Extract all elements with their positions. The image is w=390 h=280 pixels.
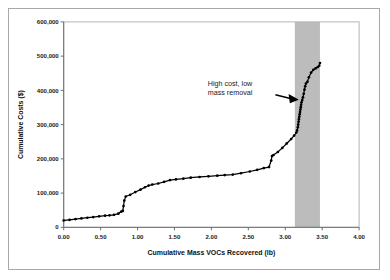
data-point xyxy=(302,96,305,99)
data-point xyxy=(298,113,301,116)
data-point xyxy=(68,218,71,221)
data-point xyxy=(303,88,306,91)
x-tick-label: 3.00 xyxy=(279,234,291,240)
y-tick-label: 400,000 xyxy=(37,88,60,94)
data-point xyxy=(223,174,226,177)
figure-outer-frame: 0100,000200,000300,000400,000500,000600,… xyxy=(8,8,380,270)
data-point xyxy=(169,179,172,182)
data-point xyxy=(301,99,304,102)
data-point xyxy=(298,118,301,121)
data-point xyxy=(240,172,243,175)
x-axis xyxy=(64,227,359,230)
data-point xyxy=(62,219,65,222)
data-point xyxy=(104,214,107,217)
data-point xyxy=(310,71,313,74)
data-point xyxy=(262,167,265,170)
data-point xyxy=(151,183,154,186)
data-point xyxy=(272,154,275,157)
data-point xyxy=(74,218,77,221)
x-tick-label: 3.50 xyxy=(316,234,328,240)
data-point xyxy=(299,108,302,111)
y-tick-label: 100,000 xyxy=(37,190,60,196)
data-point xyxy=(296,129,299,132)
data-point xyxy=(308,76,311,79)
data-point xyxy=(86,216,89,219)
data-point xyxy=(129,193,132,196)
y-axis-tick-labels: 0100,000200,000300,000400,000500,000600,… xyxy=(37,19,60,230)
cumulative-cost-chart: 0100,000200,000300,000400,000500,000600,… xyxy=(9,9,379,269)
data-point xyxy=(297,121,300,124)
data-point xyxy=(207,175,210,178)
data-point xyxy=(124,195,127,198)
x-tick-label: 0.50 xyxy=(95,234,107,240)
chart-container: 0100,000200,000300,000400,000500,000600,… xyxy=(9,9,379,269)
data-point xyxy=(175,178,178,181)
data-point xyxy=(299,106,302,109)
data-point xyxy=(216,174,219,177)
data-point xyxy=(163,180,166,183)
data-point xyxy=(182,177,185,180)
y-tick-label: 500,000 xyxy=(37,53,60,59)
data-point xyxy=(318,64,321,67)
y-tick-label: 200,000 xyxy=(37,156,60,162)
data-point xyxy=(306,80,309,83)
y-tick-label: 0 xyxy=(55,225,59,231)
data-point xyxy=(293,134,296,137)
data-point xyxy=(92,216,95,219)
annotation-line-2: mass removal xyxy=(208,89,253,97)
data-point xyxy=(157,182,160,185)
data-point xyxy=(270,159,273,162)
data-point xyxy=(297,123,300,126)
data-point xyxy=(300,101,303,104)
data-point xyxy=(281,147,284,150)
x-tick-label: 1.50 xyxy=(169,234,181,240)
data-point xyxy=(302,92,305,95)
data-point xyxy=(198,176,201,179)
data-point xyxy=(98,215,101,218)
x-tick-label: 2.00 xyxy=(206,234,218,240)
x-axis-title: Cumulative Mass VOCs Recovered (lb) xyxy=(148,249,276,257)
y-axis xyxy=(61,22,64,227)
data-point xyxy=(189,176,192,179)
x-tick-label: 0.00 xyxy=(58,234,70,240)
data-point xyxy=(113,213,116,216)
x-tick-label: 2.50 xyxy=(242,234,254,240)
data-point xyxy=(300,103,303,106)
data-point xyxy=(80,217,83,220)
data-point xyxy=(144,186,147,189)
data-point xyxy=(231,173,234,176)
x-tick-label: 1.00 xyxy=(132,234,144,240)
y-axis-title: Cumulative Costs ($) xyxy=(17,90,25,159)
data-point xyxy=(147,184,150,187)
data-point xyxy=(296,126,299,129)
x-axis-tick-labels: 0.000.501.001.502.002.503.003.504.00 xyxy=(58,234,366,240)
y-tick-label: 300,000 xyxy=(37,122,60,128)
data-point xyxy=(117,212,120,215)
data-point xyxy=(285,142,288,145)
y-tick-label: 600,000 xyxy=(37,19,60,25)
data-point xyxy=(108,214,111,217)
data-point xyxy=(290,138,293,141)
data-point xyxy=(139,188,142,191)
data-point xyxy=(123,199,126,202)
x-tick-label: 4.00 xyxy=(353,234,365,240)
data-point xyxy=(298,115,301,118)
data-point xyxy=(277,151,280,154)
data-point xyxy=(248,170,251,173)
data-point xyxy=(256,168,259,171)
data-point xyxy=(314,67,317,70)
data-point xyxy=(268,166,271,169)
data-point xyxy=(121,210,124,213)
data-point xyxy=(319,62,322,65)
data-point xyxy=(134,191,137,194)
data-point xyxy=(122,205,125,208)
data-point xyxy=(304,85,307,88)
data-point xyxy=(299,111,302,114)
annotation-line-1: High cost, low xyxy=(208,80,253,88)
